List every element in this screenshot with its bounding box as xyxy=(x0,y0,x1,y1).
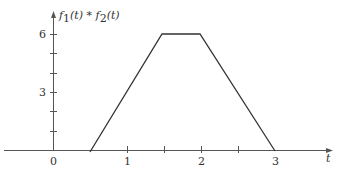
y-tick-label-3: 3 xyxy=(39,86,46,99)
x-axis-title: t xyxy=(326,152,331,165)
convolution-chart: 6 3 0 1 2 3 t f1(t) * f2(t) xyxy=(0,0,345,177)
convolution-curve xyxy=(90,34,275,152)
y-axis-arrow-icon xyxy=(51,11,56,18)
x-tick-label-3: 3 xyxy=(272,155,279,168)
x-tick-label-2: 2 xyxy=(198,155,205,168)
x-tick-label-1: 1 xyxy=(124,155,131,168)
y-tick-label-6: 6 xyxy=(39,28,46,41)
x-tick-label-0: 0 xyxy=(50,155,57,168)
x-ticks xyxy=(128,146,239,153)
y-axis-title: f1(t) * f2(t) xyxy=(58,9,120,25)
